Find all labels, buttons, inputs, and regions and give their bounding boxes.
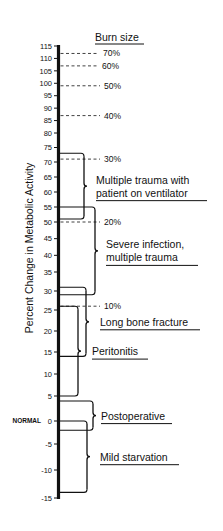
y-tick-label: 0: [48, 417, 52, 426]
range-top-bound: [60, 421, 88, 424]
range-top-bound: [60, 401, 94, 404]
y-tick-label: 90: [44, 104, 52, 113]
condition-range: Postoperative: [60, 401, 173, 430]
range-bottom-bound: [60, 393, 79, 396]
y-tick-label: 100: [39, 79, 52, 88]
y-tick-label: 15: [44, 348, 52, 357]
y-tick-label: 35: [44, 268, 52, 277]
y-axis: 1151101051009590858075706560555045403530…: [12, 42, 58, 503]
y-tick-label: 45: [44, 234, 52, 243]
condition-range: Severe infection,multiple trauma: [60, 207, 199, 295]
y-tick-label: 75: [44, 143, 52, 152]
y-axis-title: Percent Change in Metabolic Activity: [23, 162, 35, 333]
burn-size-marker-label: 50%: [104, 81, 121, 91]
brace-icon: [86, 290, 89, 353]
condition-range: Multiple trauma withpatient on ventilato…: [60, 153, 208, 219]
range-bottom-bound: [60, 353, 87, 356]
condition-label: Peritonitis: [92, 345, 138, 357]
y-tick-label: 30: [44, 287, 52, 296]
y-tick-label: 65: [44, 173, 52, 182]
condition-ranges: Multiple trauma withpatient on ventilato…: [60, 153, 208, 492]
range-bottom-bound: [60, 292, 96, 295]
y-tick-label: 20: [44, 327, 52, 336]
normal-label: NORMAL: [12, 417, 41, 424]
y-tick-label: 70: [44, 158, 52, 167]
y-tick-label: 95: [44, 91, 52, 100]
burn-size-title: Burn size: [95, 31, 139, 43]
condition-range: Mild starvation: [60, 421, 180, 492]
range-top-bound: [60, 306, 79, 309]
burn-size-marker-label: 10%: [104, 301, 121, 311]
range-bottom-bound: [60, 489, 88, 492]
range-bottom-bound: [60, 427, 94, 430]
condition-label: Long bone fracture: [100, 316, 188, 328]
range-top-bound: [60, 153, 85, 156]
burn-size-marker-label: 70%: [103, 48, 120, 58]
y-tick-label: 105: [39, 67, 52, 76]
condition-label: Postoperative: [101, 410, 165, 422]
y-tick-label: 5: [48, 392, 52, 401]
y-tick-label: -15: [41, 494, 52, 503]
y-tick-label: 40: [44, 251, 52, 260]
metabolic-activity-chart: Percent Change in Metabolic Activity Bur…: [0, 0, 223, 531]
range-top-bound: [60, 207, 96, 210]
burn-size-marker-label: 60%: [102, 61, 119, 71]
y-tick-label: 115: [40, 42, 52, 51]
y-tick-label: 110: [40, 54, 52, 63]
condition-label: Severe infection,: [106, 238, 184, 250]
burn-size-marker-label: 30%: [104, 154, 121, 164]
condition-label: Mild starvation: [100, 451, 168, 463]
range-bottom-bound: [60, 216, 85, 219]
condition-label: Multiple trauma with: [96, 174, 190, 186]
condition-label: patient on ventilator: [96, 187, 188, 199]
brace-icon: [78, 309, 81, 393]
burn-size-marker-label: 20%: [104, 217, 121, 227]
y-tick-label: 85: [44, 116, 52, 125]
y-tick-label: 25: [44, 306, 52, 315]
range-top-bound: [60, 287, 87, 290]
y-tick-label: 10: [44, 370, 52, 379]
y-tick-label: -10: [41, 466, 52, 475]
brace-icon: [93, 404, 96, 427]
y-tick-label: 60: [44, 188, 52, 197]
burn-size-marker-label: 40%: [104, 111, 121, 121]
y-tick-label: 50: [44, 218, 52, 227]
y-tick-label: 55: [44, 203, 52, 212]
y-tick-label: -5: [45, 440, 52, 449]
condition-label: multiple trauma: [106, 251, 178, 263]
brace-icon: [87, 424, 90, 489]
y-tick-label: 80: [44, 129, 52, 138]
